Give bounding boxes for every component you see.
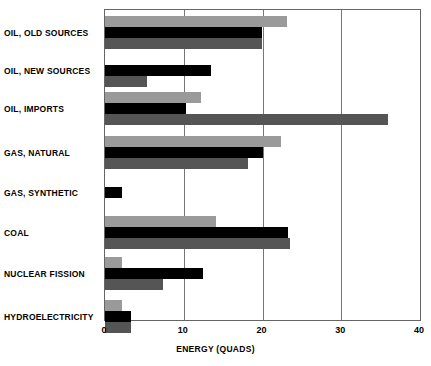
category-label-hydroelectricity: HYDROELECTRICITY: [4, 313, 94, 322]
bar: [105, 136, 281, 147]
bar: [105, 147, 263, 158]
category-label-oil-old-sources: OIL, OLD SOURCES: [4, 29, 88, 38]
x-tick-label-30: 30: [335, 326, 345, 335]
bar: [105, 27, 262, 38]
x-tick-label-10: 10: [178, 326, 188, 335]
gridline-20: [263, 10, 264, 320]
bar: [105, 187, 122, 198]
plot-area: [104, 9, 421, 321]
x-tick-label-40: 40: [414, 326, 424, 335]
category-label-oil-imports: OIL, IMPORTS: [4, 105, 64, 114]
category-label-coal: COAL: [4, 229, 29, 238]
x-tick-label-0: 0: [101, 326, 106, 335]
category-label-nuclear-fission: NUCLEAR FISSION: [4, 270, 85, 279]
bar: [105, 322, 131, 333]
bar: [105, 216, 216, 227]
bar: [105, 114, 388, 125]
bar: [105, 92, 201, 103]
gridline-30: [341, 10, 342, 320]
bar: [105, 103, 186, 114]
x-axis-title: ENERGY (QUADS): [0, 344, 431, 354]
bar: [105, 311, 131, 322]
bar: [105, 268, 203, 279]
x-tick-label-20: 20: [256, 326, 266, 335]
bar: [105, 38, 262, 49]
category-label-gas-natural: GAS, NATURAL: [4, 149, 70, 158]
bar: [105, 65, 211, 76]
bar: [105, 16, 287, 27]
bar: [105, 257, 122, 268]
bar: [105, 238, 290, 249]
category-label-oil-new-sources: OIL, NEW SOURCES: [4, 67, 90, 76]
bar-chart: OIL, OLD SOURCES OIL, NEW SOURCES OIL, I…: [0, 0, 431, 366]
bar: [105, 227, 288, 238]
bar: [105, 76, 147, 87]
bar: [105, 300, 122, 311]
bar: [105, 158, 248, 169]
bar: [105, 279, 163, 290]
category-label-gas-synthetic: GAS, SYNTHETIC: [4, 189, 78, 198]
